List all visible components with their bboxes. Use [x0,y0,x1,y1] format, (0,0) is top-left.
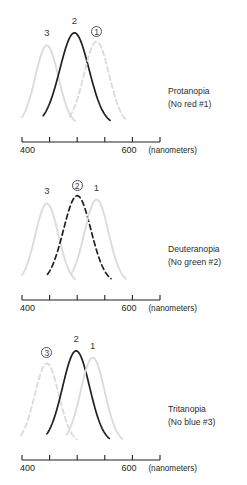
curve-label-2: 2 [72,180,83,191]
axis-label-600: 600 [121,464,136,473]
axis-label-600: 600 [121,146,136,155]
caption-tritanopia-note: (No blue #3) [168,416,215,429]
caption-deuteranopia-note: (No green #2) [168,256,221,269]
caption-protanopia-note: (No red #1) [168,98,211,111]
curve-label-3: 3 [38,28,56,38]
curve-label-1: 1 [91,26,102,37]
curve-3 [22,45,75,121]
curve-label-1: 1 [84,341,102,351]
axis-label-400: 400 [20,304,35,313]
axis-label-400: 400 [20,146,35,155]
curve-1 [71,200,126,279]
curve-label-2: 2 [67,334,85,344]
caption-deuteranopia-title: Deuteranopia [168,243,220,256]
axis-unit-label: (nanometers) [148,305,197,313]
plot-area-deuteranopia [0,158,247,320]
axis-unit-label: (nanometers) [148,465,197,473]
curve-label-1: 1 [88,183,106,193]
panel-protanopia: 3 2 1 Protanopia (No red #1) 400 600 (na… [0,0,247,162]
curve-3 [21,363,76,439]
curve-1 [70,42,128,121]
cone-sensitivity-figure: 3 2 1 Protanopia (No red #1) 400 600 (na… [0,0,247,485]
curve-2 [47,351,109,439]
plot-area-protanopia [0,0,247,162]
plot-area-tritanopia [0,318,247,480]
axis-label-600: 600 [121,304,136,313]
curve-1 [67,358,122,439]
caption-protanopia-title: Protanopia [168,85,210,98]
axis-label-400: 400 [20,464,35,473]
panel-tritanopia: 3 2 1 Tritanopia (No blue #3) 400 600 (n… [0,318,247,480]
panel-deuteranopia: 3 2 1 Deuteranopia (No green #2) 400 600… [0,158,247,320]
curve-label-3: 3 [38,186,56,196]
curve-label-2: 2 [65,16,83,26]
caption-tritanopia-title: Tritanopia [168,403,206,416]
axis-unit-label: (nanometers) [148,147,197,155]
